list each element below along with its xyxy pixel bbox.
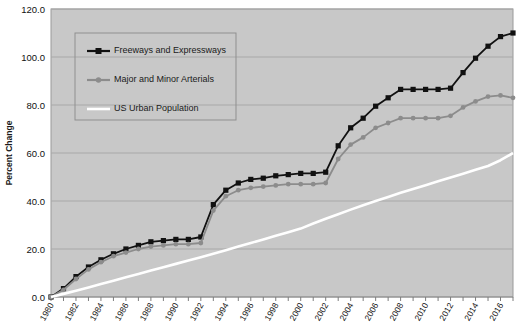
data-point-marker: [423, 87, 428, 92]
data-point-marker: [186, 242, 191, 247]
data-point-marker: [173, 237, 178, 242]
percent-change-line-chart: 0.020.040.060.080.0100.0120.0 1980198219…: [0, 0, 518, 332]
data-point-marker: [423, 116, 428, 121]
data-point-marker: [411, 87, 416, 92]
y-tick-label: 20.0: [27, 244, 46, 255]
data-point-marker: [186, 237, 191, 242]
y-tick-label: 0.0: [32, 292, 45, 303]
data-point-marker: [373, 104, 378, 109]
data-point-marker: [498, 93, 503, 98]
data-point-marker: [461, 105, 466, 110]
data-point-marker: [311, 171, 316, 176]
data-point-marker: [273, 183, 278, 188]
data-point-marker: [386, 121, 391, 126]
data-point-marker: [460, 70, 465, 75]
data-point-marker: [198, 241, 203, 246]
data-point-marker: [86, 267, 91, 272]
data-point-marker: [398, 116, 403, 121]
legend-label: Freeways and Expressways: [114, 45, 227, 55]
data-point-marker: [248, 177, 253, 182]
y-tick-label: 60.0: [27, 148, 46, 159]
data-point-marker: [161, 238, 166, 243]
data-point-marker: [61, 287, 66, 292]
data-point-marker: [485, 44, 490, 49]
data-point-marker: [136, 247, 141, 252]
data-point-marker: [211, 208, 216, 213]
data-point-marker: [361, 135, 366, 140]
data-point-marker: [336, 157, 341, 162]
y-tick-label: 120.0: [21, 4, 45, 15]
data-point-marker: [298, 171, 303, 176]
data-point-marker: [99, 260, 104, 265]
data-point-marker: [323, 181, 328, 186]
data-point-marker: [386, 95, 391, 100]
y-tick-label: 100.0: [21, 52, 45, 63]
data-point-marker: [173, 242, 178, 247]
data-point-marker: [124, 250, 129, 255]
data-point-marker: [498, 34, 503, 39]
data-point-marker: [111, 254, 116, 259]
y-tick-label: 40.0: [27, 196, 46, 207]
data-point-marker: [236, 188, 241, 193]
data-point-marker: [223, 188, 228, 193]
data-point-marker: [511, 95, 516, 100]
data-point-marker: [161, 243, 166, 248]
data-point-marker: [286, 182, 291, 187]
chart-container: 0.020.040.060.080.0100.0120.0 1980198219…: [0, 0, 518, 332]
y-axis-title: Percent Change: [4, 120, 14, 185]
data-point-marker: [261, 184, 266, 189]
data-point-marker: [236, 180, 241, 185]
legend-swatch-marker: [96, 48, 102, 54]
data-point-marker: [435, 87, 440, 92]
data-point-marker: [348, 142, 353, 147]
data-point-marker: [448, 113, 453, 118]
data-point-marker: [336, 143, 341, 148]
data-point-marker: [486, 94, 491, 99]
data-point-marker: [148, 239, 153, 244]
data-point-marker: [473, 99, 478, 104]
legend-label: Major and Minor Arterials: [114, 74, 215, 84]
data-point-marker: [261, 176, 266, 181]
data-point-marker: [223, 194, 228, 199]
data-point-marker: [348, 125, 353, 130]
data-point-marker: [510, 30, 515, 35]
legend-label: US Urban Population: [114, 103, 199, 113]
data-point-marker: [148, 244, 153, 249]
data-point-marker: [286, 172, 291, 177]
data-point-marker: [373, 125, 378, 130]
data-point-marker: [411, 116, 416, 121]
data-point-marker: [311, 182, 316, 187]
data-point-marker: [74, 277, 79, 282]
data-point-marker: [398, 87, 403, 92]
legend-swatch-marker: [96, 77, 101, 82]
data-point-marker: [248, 185, 253, 190]
data-point-marker: [361, 116, 366, 121]
data-point-marker: [273, 173, 278, 178]
data-point-marker: [448, 86, 453, 91]
data-point-marker: [211, 202, 216, 207]
y-tick-label: 80.0: [27, 100, 46, 111]
data-point-marker: [436, 116, 441, 121]
data-point-marker: [298, 182, 303, 187]
data-point-marker: [323, 170, 328, 175]
data-point-marker: [473, 56, 478, 61]
